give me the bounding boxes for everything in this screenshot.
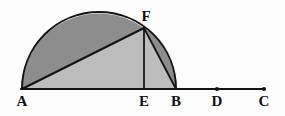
figure-canvas: A E B D C F bbox=[0, 0, 285, 116]
point-label-F: F bbox=[141, 8, 150, 24]
geometry-figure: A E B D C F bbox=[0, 0, 285, 116]
point-label-B: B bbox=[171, 93, 181, 109]
point-label-D: D bbox=[212, 93, 223, 109]
point-label-E: E bbox=[139, 93, 149, 109]
point-label-A: A bbox=[17, 93, 28, 109]
point-label-C: C bbox=[259, 93, 270, 109]
point-marker-C bbox=[262, 87, 266, 91]
point-marker-D bbox=[215, 87, 219, 91]
